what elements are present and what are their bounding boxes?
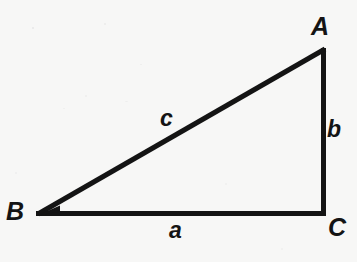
side-label-a: a	[169, 219, 182, 242]
side-label-b: b	[327, 118, 341, 141]
vertex-label-c: C	[328, 215, 346, 240]
vertex-label-a: A	[311, 14, 329, 39]
vertex-label-b: B	[6, 199, 24, 224]
side-c-line	[38, 49, 325, 214]
side-label-c: c	[160, 107, 173, 130]
triangle-figure: A B C a b c	[0, 0, 357, 262]
